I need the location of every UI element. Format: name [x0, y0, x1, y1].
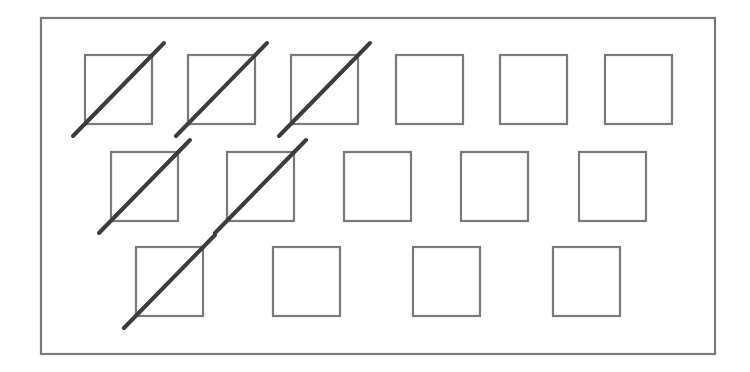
- slash-mark: [279, 43, 370, 136]
- box-outline: [553, 247, 620, 316]
- crossed-box: [215, 140, 306, 233]
- slash-mark: [124, 235, 215, 328]
- box-outline: [461, 152, 528, 221]
- outer-frame: [41, 18, 715, 354]
- box-rows: [73, 43, 672, 328]
- box-outline: [605, 55, 672, 124]
- empty-box: [344, 152, 411, 221]
- empty-box: [500, 55, 567, 124]
- box-outline: [579, 152, 646, 221]
- diagram-svg: [0, 0, 750, 372]
- crossed-box: [73, 43, 164, 136]
- crossed-box: [124, 235, 215, 328]
- empty-box: [461, 152, 528, 221]
- crossed-box: [279, 43, 370, 136]
- empty-box: [579, 152, 646, 221]
- empty-box: [605, 55, 672, 124]
- slash-mark: [176, 43, 267, 136]
- box-outline: [396, 55, 463, 124]
- box-outline: [413, 247, 480, 316]
- slash-mark: [73, 43, 164, 136]
- diagram-canvas: [0, 0, 750, 372]
- box-outline: [273, 247, 340, 316]
- row-1: [73, 43, 672, 136]
- crossed-box: [176, 43, 267, 136]
- empty-box: [273, 247, 340, 316]
- row-3: [124, 235, 620, 328]
- box-outline: [500, 55, 567, 124]
- slash-mark: [215, 140, 306, 233]
- box-outline: [344, 152, 411, 221]
- empty-box: [553, 247, 620, 316]
- empty-box: [396, 55, 463, 124]
- empty-box: [413, 247, 480, 316]
- row-2: [99, 140, 646, 233]
- slash-mark: [99, 140, 190, 233]
- crossed-box: [99, 140, 190, 233]
